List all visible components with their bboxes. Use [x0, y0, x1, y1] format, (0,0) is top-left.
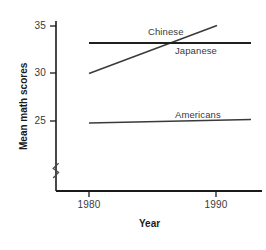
y-axis-break-icon [53, 163, 58, 178]
x-axis-title: Year [139, 218, 160, 229]
series-line-americans [89, 120, 251, 124]
y-tick-label-35: 35 [18, 20, 46, 31]
line-chart: 35 30 25 1980 1990 Mean math scores Year… [0, 0, 266, 250]
x-tick-label-1980: 1980 [69, 199, 109, 210]
series-label-americans: Americans [175, 109, 221, 120]
y-axis-title: Mean math scores [18, 63, 29, 150]
series-label-japanese: Japanese [175, 45, 217, 56]
x-tick-label-1990: 1990 [196, 199, 236, 210]
series-label-chinese: Chinese [148, 26, 184, 37]
